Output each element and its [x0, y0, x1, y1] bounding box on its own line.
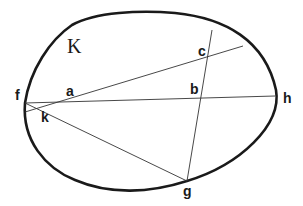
point-label-f: f: [15, 88, 20, 102]
point-label-a: a: [66, 84, 74, 98]
convex-body-diagram: K a b c f g h k: [0, 0, 303, 206]
point-label-g: g: [183, 184, 192, 198]
point-label-b: b: [190, 82, 199, 96]
point-label-h: h: [283, 91, 292, 105]
chord-f-g: [25, 103, 187, 181]
diagram-svg: [0, 0, 303, 206]
point-label-c: c: [198, 44, 206, 58]
chord-through-a-c: [25, 46, 243, 112]
chord-f-h: [25, 96, 275, 103]
point-label-k: k: [41, 110, 49, 124]
region-label-K: K: [67, 36, 81, 56]
